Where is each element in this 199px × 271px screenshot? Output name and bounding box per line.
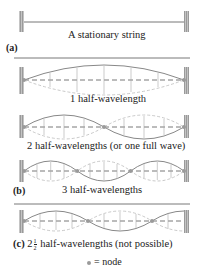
caption-mode-1: 1 half-wavelength	[70, 93, 146, 104]
caption-mode-2: 2 half-wavelengths (or one full wave)	[27, 140, 185, 151]
part-label-c: (c)	[13, 238, 25, 249]
part-label-b: (b)	[13, 185, 25, 196]
mode-2-5-impossible	[19, 210, 189, 233]
legend-text: = node	[94, 256, 122, 267]
node-icon	[87, 261, 91, 265]
standing-waves-diagram	[0, 0, 199, 271]
caption-mode-3: 3 half-wavelengths	[62, 184, 142, 195]
fraction: 12	[34, 238, 37, 251]
mode-1	[19, 65, 189, 95]
fraction-whole: 2	[27, 238, 32, 249]
caption-text: half-wavelengths (not possible)	[40, 238, 172, 249]
caption-stationary: A stationary string	[68, 29, 146, 40]
part-label-a: (a)	[6, 42, 18, 53]
mode-3	[19, 160, 189, 182]
mode-2	[19, 115, 189, 139]
caption-mode-2-5: (c) 212 half-wavelengths (not possible)	[13, 238, 173, 251]
